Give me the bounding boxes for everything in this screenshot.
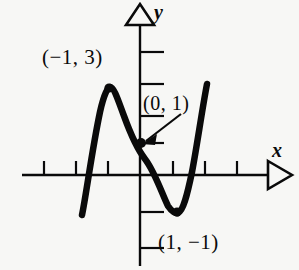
y-axis-label: y [154,2,163,22]
label-local-min: (1, −1) [158,232,219,253]
label-y-intercept: (0, 1) [143,93,189,113]
coordinate-plot [0,0,299,270]
y-axis-arrowhead-icon [126,4,154,25]
x-axis-arrowhead-icon [268,161,292,189]
annotation-arrow [142,114,181,145]
point-local-max [104,83,113,92]
point-local-min [172,207,181,216]
label-local-max: (−1, 3) [42,47,103,68]
y-axis-ticks [140,52,164,248]
figure-canvas: (−1, 3) (0, 1) (1, −1) x y [0,0,299,270]
x-axis-label: x [272,140,282,160]
